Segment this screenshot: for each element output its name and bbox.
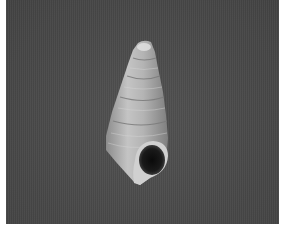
shell-aperture xyxy=(139,145,165,175)
shell-illustration xyxy=(6,0,279,224)
photograph xyxy=(6,0,279,224)
